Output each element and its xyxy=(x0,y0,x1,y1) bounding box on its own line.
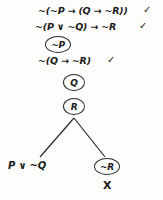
truth-tree-diagram: ~(~P → (Q → ~R)) ✓ ~(P ∨ ~Q) → ~R ✓ ~P ~… xyxy=(0,0,163,200)
tree-node-line6-circled: R xyxy=(63,98,85,115)
tree-node-branch-left: P ∨ ~Q xyxy=(8,161,46,171)
closed-branch-marker: X xyxy=(103,180,111,191)
tree-node-branch-right-label: ~R xyxy=(100,162,114,172)
branch-line-left xyxy=(40,118,74,157)
check-mark-line1: ✓ xyxy=(143,5,151,15)
tree-node-line4: ~(Q → ~R) xyxy=(38,56,91,66)
tree-node-line3-label: ~P xyxy=(51,40,65,50)
tree-node-line5-label: Q xyxy=(70,78,77,88)
branch-line-right xyxy=(74,118,105,157)
tree-node-line6-label: R xyxy=(71,102,78,112)
check-mark-line2: ✓ xyxy=(139,21,147,31)
tree-node-line5-circled: Q xyxy=(63,74,85,91)
check-mark-line4: ✓ xyxy=(107,55,115,65)
tree-node-line3-circled: ~P xyxy=(45,36,71,53)
tree-node-line2: ~(P ∨ ~Q) → ~R xyxy=(35,22,116,32)
tree-node-branch-right-circled: ~R xyxy=(94,158,120,175)
tree-node-line1: ~(~P → (Q → ~R)) xyxy=(38,6,128,16)
